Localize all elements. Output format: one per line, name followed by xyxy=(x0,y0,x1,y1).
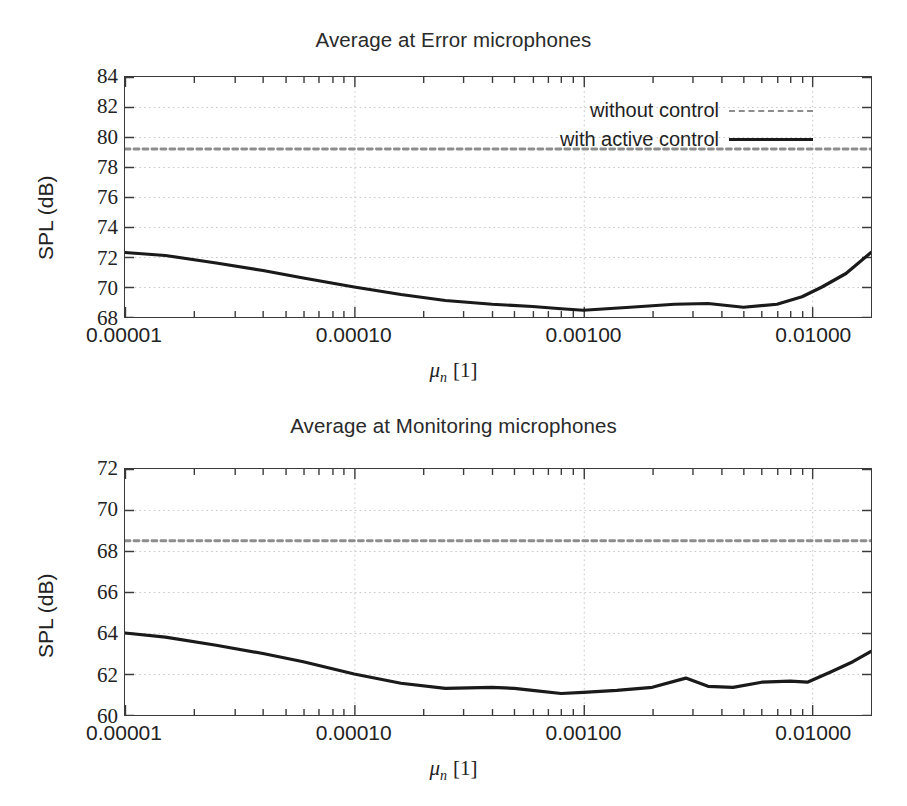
y-tick-label: 70 xyxy=(97,278,118,299)
y-tick-label: 76 xyxy=(97,187,118,208)
legend-label: without control xyxy=(590,99,719,122)
y-axis-label: SPL (dB) xyxy=(34,176,58,260)
y-tick-label: 78 xyxy=(97,157,118,178)
x-tick-label: 0.00100 xyxy=(546,722,622,743)
y-tick-label: 68 xyxy=(97,541,118,562)
x-axis-tick-labels: 0.000010.000100.001000.01000 xyxy=(124,324,872,350)
y-tick-label: 62 xyxy=(97,665,118,686)
x-axis-label-subscript: n xyxy=(440,768,447,783)
x-axis-label-mu: μ xyxy=(430,358,441,382)
series-with-active-control xyxy=(125,633,871,693)
series-with-active-control xyxy=(125,252,871,310)
chart-panel-monitoring-microphones: Average at Monitoring microphones SPL (d… xyxy=(0,400,907,806)
x-axis-label-mu: μ xyxy=(430,756,441,780)
y-axis-label: SPL (dB) xyxy=(34,574,58,658)
y-tick-label: 64 xyxy=(97,623,118,644)
y-axis-tick-labels: 72706866646260 xyxy=(60,468,118,716)
y-tick-label: 82 xyxy=(97,96,118,117)
y-tick-label: 80 xyxy=(97,127,118,148)
x-tick-label: 0.01000 xyxy=(775,324,851,345)
x-axis-label-subscript: n xyxy=(440,370,447,385)
x-tick-label: 0.00010 xyxy=(316,722,392,743)
legend: without control with active control xyxy=(560,96,813,154)
plot-canvas xyxy=(125,469,871,715)
y-axis-tick-labels: 848280787674727068 xyxy=(60,76,118,318)
legend-label: with active control xyxy=(560,128,719,151)
legend-swatch-solid xyxy=(729,133,813,147)
x-axis-label: μn [1] xyxy=(0,756,907,784)
x-tick-label: 0.00001 xyxy=(86,324,162,345)
x-axis-label-unit: [1] xyxy=(453,358,478,382)
figure-root: Average at Error microphones SPL (dB) 84… xyxy=(0,0,907,806)
x-tick-label: 0.01000 xyxy=(775,722,851,743)
x-axis-label: μn [1] xyxy=(0,358,907,386)
legend-item-without-control: without control xyxy=(560,96,813,125)
x-tick-label: 0.00001 xyxy=(86,722,162,743)
chart-title: Average at Monitoring microphones xyxy=(0,414,907,438)
legend-swatch-dashed xyxy=(729,104,813,118)
y-tick-label: 74 xyxy=(97,217,118,238)
x-tick-label: 0.00100 xyxy=(546,324,622,345)
chart-panel-error-microphones: Average at Error microphones SPL (dB) 84… xyxy=(0,0,907,400)
x-axis-label-unit: [1] xyxy=(453,756,478,780)
plot-area xyxy=(124,468,872,716)
y-tick-label: 72 xyxy=(97,248,118,269)
y-tick-label: 70 xyxy=(97,499,118,520)
legend-item-with-active-control: with active control xyxy=(560,125,813,154)
x-tick-label: 0.00010 xyxy=(316,324,392,345)
chart-title: Average at Error microphones xyxy=(0,28,907,52)
x-axis-tick-labels: 0.000010.000100.001000.01000 xyxy=(124,722,872,748)
y-tick-label: 66 xyxy=(97,582,118,603)
y-tick-label: 72 xyxy=(97,458,118,479)
y-tick-label: 84 xyxy=(97,66,118,87)
